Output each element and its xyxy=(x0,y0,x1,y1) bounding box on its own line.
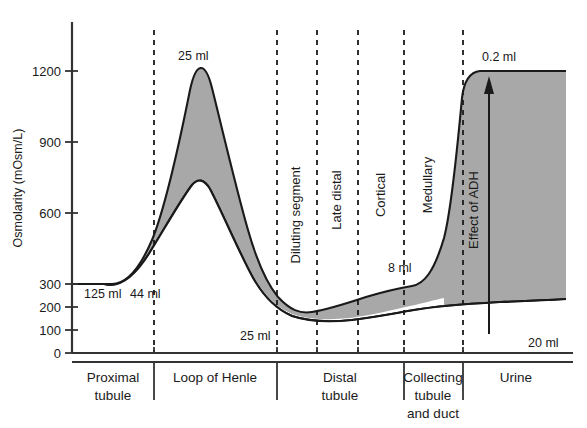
y-tick-900: 900 xyxy=(39,135,61,150)
region-label-late-distal: Late distal xyxy=(329,170,344,229)
segment-label-proximal-tubule-line2: tubule xyxy=(95,388,132,403)
annotation-vol-02: 0.2 ml xyxy=(482,50,516,64)
annotation-vol-25-distal: 25 ml xyxy=(240,329,271,343)
y-tick-600: 600 xyxy=(39,206,61,221)
y-tick-100: 100 xyxy=(39,323,61,338)
osmolarity-figure: 1200 900 600 300 200 100 0 Osmolarity (m… xyxy=(0,0,587,428)
segment-label-distal-tubule-line1: Distal xyxy=(323,370,357,385)
y-tick-1200: 1200 xyxy=(32,64,61,79)
chart-svg: 1200 900 600 300 200 100 0 Osmolarity (m… xyxy=(0,0,587,428)
segment-label-loop-of-henle: Loop of Henle xyxy=(173,370,257,385)
annotation-vol-125: 125 ml xyxy=(84,287,122,301)
segment-label-collecting-line2: tubule xyxy=(415,388,452,403)
region-label-diluting-segment: Diluting segment xyxy=(288,166,303,263)
annotation-vol-8: 8 ml xyxy=(388,261,412,275)
segment-label-proximal-tubule-line1: Proximal xyxy=(87,370,140,385)
y-tick-0: 0 xyxy=(54,346,61,361)
region-label-cortical: Cortical xyxy=(373,173,388,217)
y-tick-300: 300 xyxy=(39,277,61,292)
y-axis-title: Osmolarity (mOsm/L) xyxy=(11,129,25,248)
annotation-vol-44: 44 ml xyxy=(130,287,161,301)
region-label-medullary: Medullary xyxy=(420,156,435,213)
effect-of-adh-label: Effect of ADH xyxy=(466,171,481,249)
segment-label-urine: Urine xyxy=(500,370,532,385)
y-tick-200: 200 xyxy=(39,300,61,315)
annotation-vol-20: 20 ml xyxy=(528,336,559,350)
segment-label-distal-tubule-line2: tubule xyxy=(322,388,359,403)
annotation-vol-25-peak: 25 ml xyxy=(178,49,209,63)
segment-label-collecting-line1: Collecting xyxy=(403,370,462,385)
segment-label-collecting-line3: and duct xyxy=(407,406,459,421)
